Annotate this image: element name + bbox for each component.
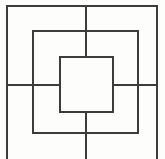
figure-background — [0, 0, 165, 159]
nested-squares-diagram — [0, 0, 165, 159]
figure-canvas — [0, 0, 165, 159]
